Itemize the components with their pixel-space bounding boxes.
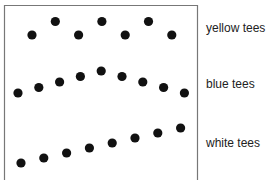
white-tees-dot-8 [176,123,185,132]
blue-tees-dot-6 [117,72,126,81]
blue-tees-dot-4 [76,72,85,81]
yellow-tees-dot-6 [144,17,153,26]
yellow-tees-dot-2 [51,17,60,26]
white-tees-dot-1 [16,158,25,167]
blue-tees-dot-9 [180,88,189,97]
yellow-tees-dot-7 [167,30,176,39]
white-tees-dot-2 [39,153,48,162]
white-tees-dot-3 [62,148,71,157]
label-blue-tees: blue tees [206,77,255,91]
blue-tees-dot-2 [34,83,43,92]
blue-tees-dot-8 [159,83,168,92]
blue-tees-dot-5 [97,66,106,75]
blue-tees-dot-3 [55,77,64,86]
yellow-tees-dot-1 [27,30,36,39]
yellow-tees-dot-5 [121,30,130,39]
yellow-tees-dot-4 [97,17,106,26]
label-white-tees: white tees [206,136,260,150]
blue-tees-dot-7 [138,77,147,86]
white-tees-dot-6 [130,133,139,142]
white-tees-dot-7 [153,128,162,137]
white-tees-dot-5 [108,138,117,147]
white-tees-dot-4 [85,143,94,152]
yellow-tees-dot-3 [74,30,83,39]
label-yellow-tees: yellow tees [206,21,265,35]
blue-tees-dot-1 [13,88,22,97]
